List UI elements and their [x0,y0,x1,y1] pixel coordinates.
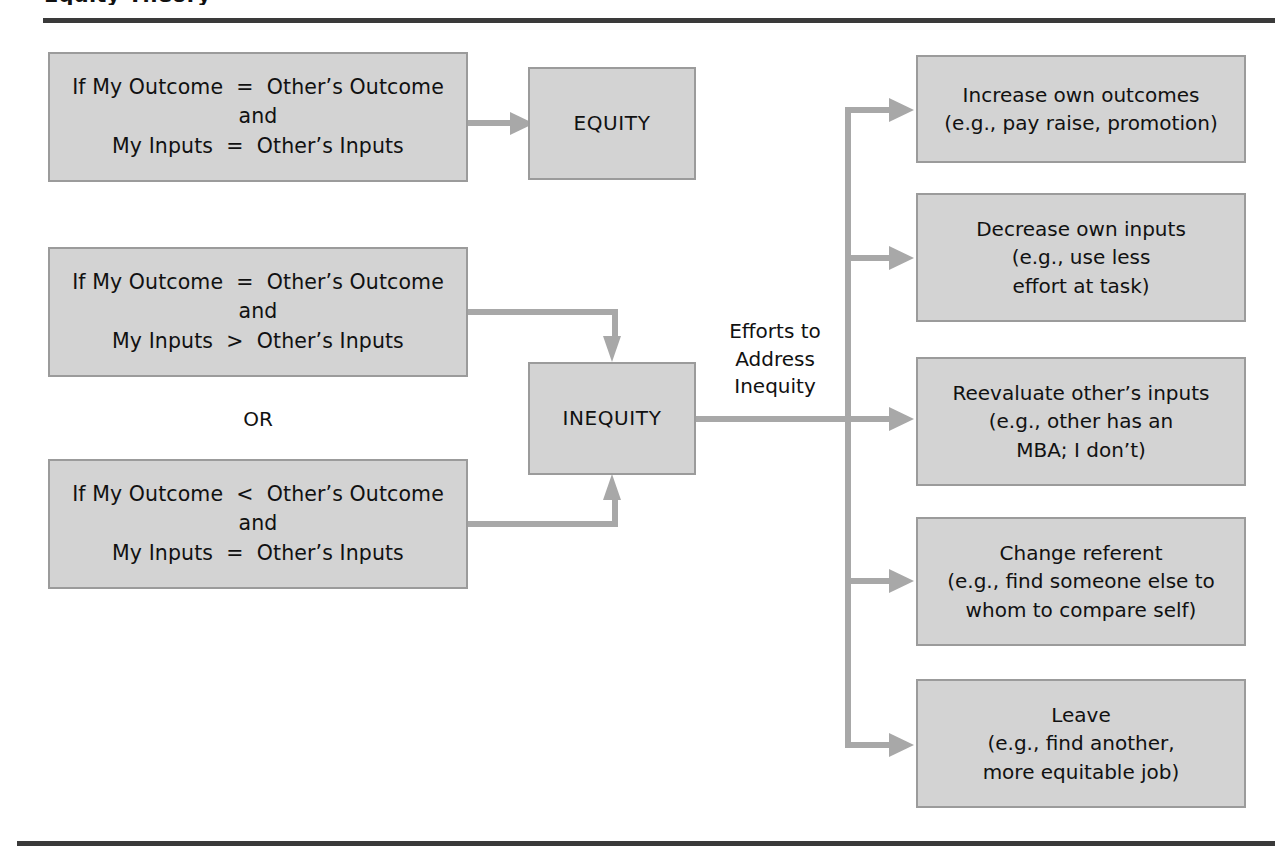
response-line: Change referent [926,539,1236,567]
equity-theory-figure: Equity Theory [0,0,1288,867]
response-line: (e.g., use less [926,243,1236,271]
outcome-box-inequity: INEQUITY [528,362,696,475]
efforts-label-line: Address [735,347,815,371]
condition-line: and [58,297,458,326]
condition-line: My Inputs = Other’s Inputs [58,132,458,161]
response-box-increase-own-outcomes: Increase own outcomes (e.g., pay raise, … [916,55,1246,163]
outcome-label-inequity: INEQUITY [538,404,686,432]
condition-box-equity: If My Outcome = Other’s Outcome and My I… [48,52,468,182]
condition-box-inequity-under: If My Outcome < Other’s Outcome and My I… [48,459,468,589]
response-line: (e.g., find another, [926,729,1236,757]
response-line: Increase own outcomes [926,81,1236,109]
response-line: whom to compare self) [926,596,1236,624]
efforts-to-address-inequity-label: Efforts to Address Inequity [710,318,840,401]
response-line: (e.g., other has an [926,407,1236,435]
response-box-leave: Leave (e.g., find another, more equitabl… [916,679,1246,808]
condition-line: and [58,509,458,538]
response-line: (e.g., find someone else to [926,567,1236,595]
response-line: (e.g., pay raise, promotion) [926,109,1236,137]
condition-line: If My Outcome = Other’s Outcome [58,268,458,297]
response-line: Decrease own inputs [926,215,1236,243]
bottom-rule [17,841,1275,846]
response-line: Reevaluate other’s inputs [926,379,1236,407]
condition-line: and [58,102,458,131]
condition-line: If My Outcome = Other’s Outcome [58,73,458,102]
response-box-decrease-own-inputs: Decrease own inputs (e.g., use less effo… [916,193,1246,322]
response-line: more equitable job) [926,758,1236,786]
condition-line: My Inputs = Other’s Inputs [58,539,458,568]
top-rule [43,18,1275,23]
efforts-label-line: Efforts to [729,319,821,343]
or-label: OR [178,406,338,434]
response-line: effort at task) [926,272,1236,300]
figure-title: Equity Theory [44,0,644,5]
condition-line: My Inputs > Other’s Inputs [58,327,458,356]
response-line: MBA; I don’t) [926,436,1236,464]
efforts-label-line: Inequity [734,374,815,398]
response-line: Leave [926,701,1236,729]
outcome-label-equity: EQUITY [538,109,686,137]
outcome-box-equity: EQUITY [528,67,696,180]
response-box-reevaluate-others-inputs: Reevaluate other’s inputs (e.g., other h… [916,357,1246,486]
response-box-change-referent: Change referent (e.g., find someone else… [916,517,1246,646]
condition-box-inequity-over: If My Outcome = Other’s Outcome and My I… [48,247,468,377]
condition-line: If My Outcome < Other’s Outcome [58,480,458,509]
